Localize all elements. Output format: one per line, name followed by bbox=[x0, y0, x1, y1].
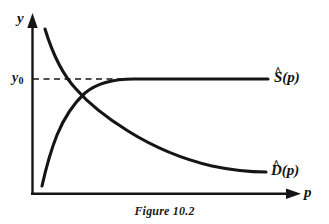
demand-curve-label: ^D(p) bbox=[271, 163, 299, 178]
x-axis-label: p bbox=[304, 185, 312, 200]
x-axis-arrowhead bbox=[286, 189, 301, 199]
demand-label-argument: (p) bbox=[282, 162, 300, 178]
supply-curve-label: ^S(p) bbox=[274, 70, 300, 85]
figure-container: y p y0 ^S(p) ^D(p) Figure 10.2 bbox=[0, 0, 329, 224]
demand-label-glyph: D bbox=[271, 163, 282, 178]
figure-plot bbox=[0, 0, 329, 224]
figure-caption: Figure 10.2 bbox=[0, 204, 329, 219]
y-axis-label: y bbox=[17, 11, 24, 26]
y0-tick-label: y0 bbox=[12, 71, 24, 86]
supply-label-glyph: S bbox=[274, 70, 282, 85]
supply-label-hatted-glyph: ^S bbox=[274, 70, 282, 85]
y-axis-arrowhead bbox=[27, 13, 37, 28]
supply-label-argument: (p) bbox=[282, 69, 300, 85]
demand-label-hatted-glyph: ^D bbox=[271, 163, 282, 178]
y0-tick-label-subscript: 0 bbox=[19, 75, 24, 86]
y0-tick-label-main: y bbox=[12, 70, 18, 85]
